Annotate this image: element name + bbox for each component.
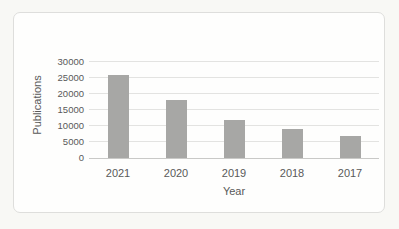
x-tick-label-2019: 2019 — [222, 166, 246, 180]
y-tick-label: 25000 — [14, 72, 84, 84]
x-tick-label-2020: 2020 — [164, 166, 188, 180]
page: { "chart_data": { "type": "bar", "title"… — [0, 0, 399, 229]
bar-2020 — [166, 100, 187, 158]
bar-2018 — [282, 129, 303, 158]
gridline — [89, 77, 379, 78]
chart-frame: Publications 050001000015000200002500030… — [13, 12, 385, 213]
gridline — [89, 109, 379, 110]
y-axis-tick-labels: 050001000015000200002500030000 — [14, 62, 84, 158]
gridline — [89, 61, 379, 62]
plot-area — [89, 62, 379, 159]
y-tick-label: 0 — [14, 152, 84, 164]
bar-2017 — [340, 136, 361, 158]
x-tick-label-2021: 2021 — [106, 166, 130, 180]
y-tick-label: 15000 — [14, 104, 84, 116]
bar-2019 — [224, 120, 245, 158]
y-tick-label: 5000 — [14, 136, 84, 148]
x-tick-label-2017: 2017 — [338, 166, 362, 180]
x-tick-label-2018: 2018 — [280, 166, 304, 180]
x-axis-tick-labels: 20212020201920182017 — [89, 166, 379, 180]
gridline — [89, 93, 379, 94]
y-tick-label: 30000 — [14, 56, 84, 68]
y-tick-label: 10000 — [14, 120, 84, 132]
y-tick-label: 20000 — [14, 88, 84, 100]
bar-2021 — [108, 75, 129, 158]
x-axis-title: Year — [89, 184, 379, 198]
